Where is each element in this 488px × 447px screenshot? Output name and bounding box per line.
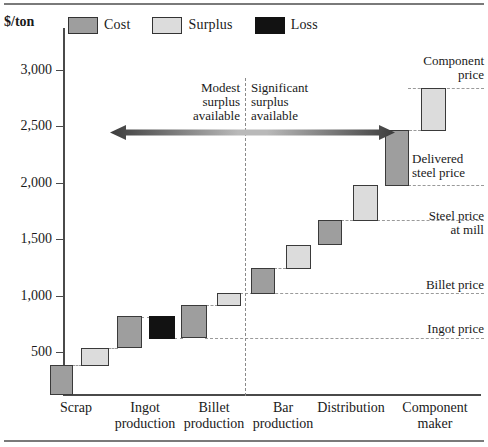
bar-scrap-surplus xyxy=(81,348,109,366)
x-label-bar-line2: production xyxy=(243,416,323,432)
y-tick-label-500: 500 xyxy=(6,344,52,360)
callout-modest-surplus: Modest surplus available xyxy=(170,81,240,123)
x-label-billet-line2: production xyxy=(174,416,254,432)
connector-distribution-surplus xyxy=(341,220,353,221)
callout-modest-line1: Modest xyxy=(170,81,240,95)
bar-bar-production-cost xyxy=(251,268,275,294)
chart-legend: Cost Surplus Loss xyxy=(68,14,340,36)
price-label-mill-line2: at mill xyxy=(384,223,484,237)
price-label-billet-text: Billet price xyxy=(384,278,484,292)
x-label-component-line2: maker xyxy=(387,416,483,432)
x-label-ingot-line2: production xyxy=(105,416,185,432)
x-label-billet-production: Billet production xyxy=(174,400,254,432)
legend-label-loss: Loss xyxy=(291,17,318,33)
top-rule xyxy=(4,3,484,5)
steel-value-chain-waterfall-chart: Cost Surplus Loss $/ton 3,000 2,500 2,00… xyxy=(0,0,488,447)
legend-item-cost: Cost xyxy=(68,17,130,34)
legend-item-surplus: Surplus xyxy=(152,17,232,34)
price-label-delivered-steel: Delivered steel price xyxy=(412,152,488,180)
x-label-ingot-line1: Ingot xyxy=(105,400,185,416)
y-axis-unit-label: $/ton xyxy=(4,14,34,30)
bar-bar-production-surplus xyxy=(286,245,311,269)
legend-label-surplus: Surplus xyxy=(188,17,232,33)
bottom-rule xyxy=(4,440,484,442)
bar-component-maker-surplus xyxy=(421,88,446,131)
x-label-scrap: Scrap xyxy=(36,400,116,416)
callout-significant-line1: Significant xyxy=(251,81,331,95)
x-label-ingot-production: Ingot production xyxy=(105,400,185,432)
y-tick-2500 xyxy=(56,126,64,127)
y-tick-label-2000: 2,000 xyxy=(6,175,52,191)
y-tick-1500 xyxy=(56,239,64,240)
price-label-steel-at-mill: Steel price at mill xyxy=(384,209,484,237)
x-axis-line xyxy=(63,394,481,396)
price-label-component-line1: Component xyxy=(384,54,484,68)
legend-label-cost: Cost xyxy=(104,17,130,33)
price-label-delivered-line2: steel price xyxy=(412,166,488,180)
connector-loss-billet xyxy=(174,338,183,339)
price-label-component: Component price xyxy=(384,54,484,82)
y-tick-3000 xyxy=(56,70,64,71)
x-label-distribution-line1: Distribution xyxy=(310,400,392,416)
y-tick-1000 xyxy=(56,296,64,297)
price-label-component-line2: price xyxy=(384,68,484,82)
callout-significant-surplus: Significant surplus available xyxy=(251,81,331,123)
surplus-swatch-icon xyxy=(152,17,182,34)
bar-billet-surplus xyxy=(217,293,241,306)
bar-ingot-loss xyxy=(149,316,175,339)
x-label-component-line1: Component xyxy=(387,400,483,416)
surplus-range-arrow-icon xyxy=(110,124,395,141)
cost-swatch-icon xyxy=(68,17,98,34)
bar-distribution-cost xyxy=(318,220,342,245)
x-label-component-maker: Component maker xyxy=(387,400,483,432)
x-label-billet-line1: Billet xyxy=(174,400,254,416)
y-tick-label-1500: 1,500 xyxy=(6,231,52,247)
y-tick-label-2500: 2,500 xyxy=(6,118,52,134)
x-label-scrap-line1: Scrap xyxy=(36,400,116,416)
bar-distribution-surplus xyxy=(353,185,378,221)
x-label-distribution: Distribution xyxy=(310,400,392,416)
callout-modest-line2: surplus xyxy=(170,95,240,109)
price-label-ingot-text: Ingot price xyxy=(384,322,484,336)
loss-swatch-icon xyxy=(255,17,285,34)
callout-significant-line2: surplus xyxy=(251,95,331,109)
callout-significant-line3: available xyxy=(251,109,331,123)
price-label-ingot: Ingot price xyxy=(384,322,484,336)
bar-scrap-cost xyxy=(50,365,73,395)
legend-item-loss: Loss xyxy=(255,17,318,34)
price-line-ingot xyxy=(205,338,484,339)
connector-component-surplus xyxy=(409,130,421,131)
price-line-billet xyxy=(240,293,484,294)
y-tick-2000 xyxy=(56,183,64,184)
y-tick-label-3000: 3,000 xyxy=(6,62,52,78)
price-label-mill-line1: Steel price xyxy=(384,209,484,223)
bar-ingot-cost xyxy=(117,316,142,348)
connector-bar-surplus xyxy=(274,268,286,269)
callout-modest-line3: available xyxy=(170,109,240,123)
y-tick-500 xyxy=(56,352,64,353)
connector-scrap-ingot xyxy=(108,348,118,349)
price-label-delivered-line1: Delivered xyxy=(412,152,488,166)
y-tick-label-1000: 1,000 xyxy=(6,288,52,304)
price-label-billet: Billet price xyxy=(384,278,484,292)
price-line-delivered-steel xyxy=(408,185,484,186)
y-axis-line xyxy=(63,28,65,395)
bar-billet-cost xyxy=(181,305,207,338)
price-line-component xyxy=(408,88,484,89)
surplus-range-arrow xyxy=(110,124,395,141)
